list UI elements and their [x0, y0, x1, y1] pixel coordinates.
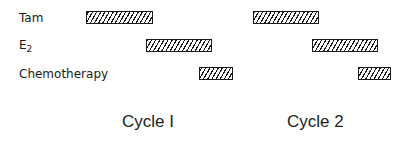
- bar-chemotherapy-cycle-1: [199, 67, 233, 80]
- bar-tam-cycle-2: [253, 11, 319, 24]
- row-label-tam: Tam: [19, 11, 43, 25]
- row-label-chemotherapy: Chemotherapy: [19, 67, 108, 81]
- bar-e2-cycle-1: [146, 39, 212, 52]
- bar-e2-cycle-2: [312, 39, 378, 52]
- row-label-e2: E2: [19, 38, 32, 56]
- bar-chemotherapy-cycle-2: [358, 67, 391, 80]
- cycle-1-label: Cycle I: [122, 112, 174, 132]
- bar-tam-cycle-1: [86, 11, 153, 24]
- cycle-2-label: Cycle 2: [287, 112, 344, 132]
